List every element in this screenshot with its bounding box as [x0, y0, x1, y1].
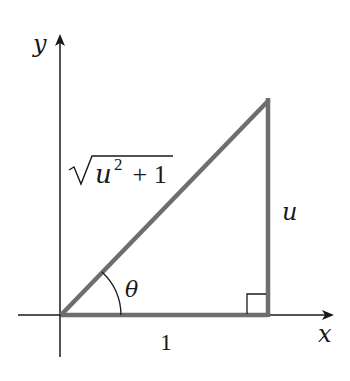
height-label: u: [282, 198, 297, 226]
angle-arc: [102, 272, 121, 315]
radicand-rest: + 1: [126, 160, 167, 189]
base-label: 1: [160, 329, 172, 355]
triangle-diagram: y x u θ 1 u 2 + 1: [0, 0, 350, 381]
right-angle-marker: [247, 294, 266, 314]
x-axis-label: x: [318, 320, 332, 348]
radicand-exponent: 2: [114, 155, 123, 174]
triangle-hypotenuse: [61, 100, 269, 315]
hypotenuse-label: u 2 + 1: [69, 155, 173, 189]
angle-label: θ: [125, 277, 138, 302]
radicand-variable: u: [95, 159, 112, 189]
y-axis-label: y: [32, 30, 47, 58]
